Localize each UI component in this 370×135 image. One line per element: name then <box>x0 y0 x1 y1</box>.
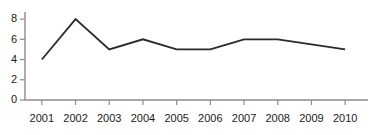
x-axis-tick-label: 2001 <box>30 112 54 124</box>
chart-canvas: 0246820012002200320042005200620072008200… <box>0 0 370 135</box>
data-series-line <box>42 19 345 59</box>
x-axis-tick-label: 2010 <box>333 112 357 124</box>
x-axis-tick-label: 2002 <box>63 112 87 124</box>
y-axis-tick-label: 4 <box>11 53 17 65</box>
line-chart: 0246820012002200320042005200620072008200… <box>0 0 370 135</box>
x-axis-tick-label: 2008 <box>266 112 290 124</box>
y-axis-tick-label: 6 <box>11 33 17 45</box>
x-axis-tick-label: 2009 <box>299 112 323 124</box>
y-axis-tick-label: 2 <box>11 73 17 85</box>
x-axis-tick-label: 2004 <box>131 112 155 124</box>
x-axis-tick-label: 2005 <box>164 112 188 124</box>
x-axis-tick-label: 2006 <box>198 112 222 124</box>
y-axis-tick-label: 8 <box>11 12 17 24</box>
x-axis-tick-label: 2007 <box>232 112 256 124</box>
y-axis-tick-label: 0 <box>11 93 17 105</box>
x-axis-tick-label: 2003 <box>97 112 121 124</box>
